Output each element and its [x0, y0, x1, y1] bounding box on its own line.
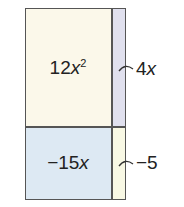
variable: x [79, 152, 89, 173]
term-12x2: 12x2 [25, 57, 111, 79]
brace-icon [117, 157, 135, 169]
brace-icon [117, 62, 135, 74]
label-neg5: −5 [136, 152, 158, 174]
horizontal-divider [25, 126, 126, 128]
label-4x: 4x [136, 58, 156, 80]
coefficient: 12 [50, 57, 71, 78]
exponent: 2 [80, 57, 86, 69]
term-neg15x: −15x [25, 152, 111, 174]
value: −5 [136, 152, 158, 173]
coefficient: −15 [47, 152, 79, 173]
variable: x [147, 58, 157, 79]
vertical-divider [111, 8, 113, 200]
variable: x [71, 57, 81, 78]
coefficient: 4 [136, 58, 147, 79]
